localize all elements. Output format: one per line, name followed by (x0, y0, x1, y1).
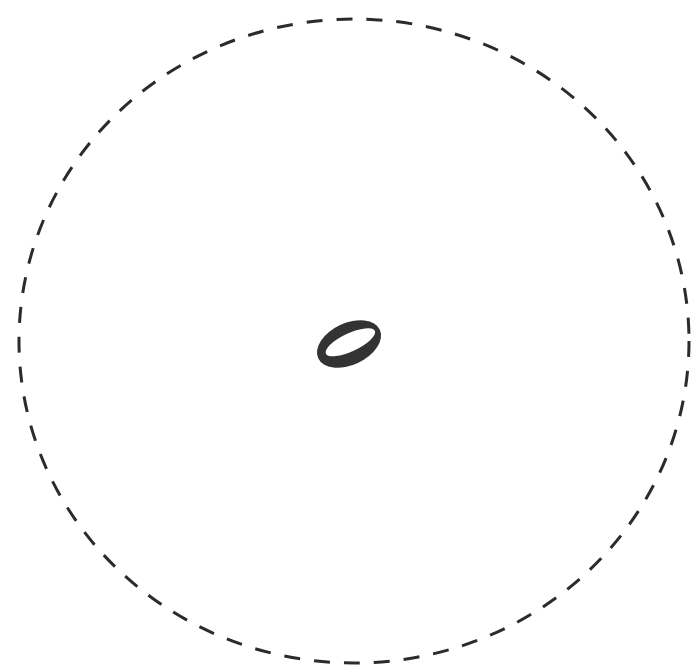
center-ring-object (309, 311, 388, 378)
ring-shape (309, 311, 388, 378)
dashed-boundary-circle (19, 19, 689, 663)
diagram-canvas (0, 0, 698, 669)
